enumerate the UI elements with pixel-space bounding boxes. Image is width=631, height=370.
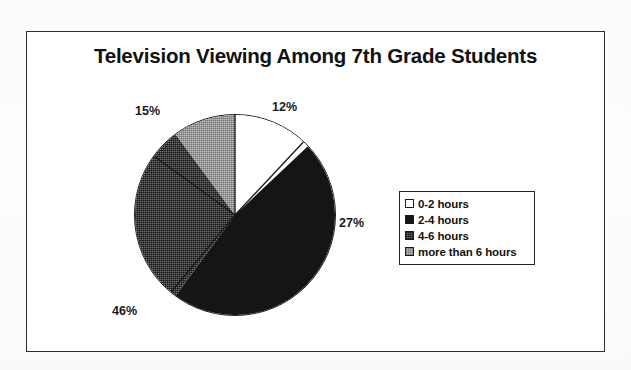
pie-slice-fill-more-than-6-hours — [135, 115, 335, 315]
legend-swatch-icon-more-than-6-hours — [405, 247, 414, 256]
legend-swatch-icon-4-6-hours — [405, 231, 414, 240]
legend-label-4-6-hours: 4-6 hours — [418, 230, 469, 242]
pie-circle — [134, 114, 336, 316]
chart-frame: Television Viewing Among 7th Grade Stude… — [26, 31, 605, 352]
pie-label-0-2-hours: 12% — [272, 100, 297, 114]
legend-label-more-than-6-hours: more than 6 hours — [418, 246, 517, 258]
pie-label-4-6-hours: 46% — [112, 304, 137, 318]
legend-label-0-2-hours: 0-2 hours — [418, 198, 469, 210]
legend-item-0-2-hours[interactable]: 0-2 hours — [405, 196, 529, 211]
chart-title: Television Viewing Among 7th Grade Stude… — [27, 44, 604, 68]
legend-item-more-than-6-hours[interactable]: more than 6 hours — [405, 244, 529, 259]
legend-swatch-icon-2-4-hours — [405, 215, 414, 224]
legend-item-4-6-hours[interactable]: 4-6 hours — [405, 228, 529, 243]
pie-chart — [134, 114, 336, 316]
legend-label-2-4-hours: 2-4 hours — [418, 214, 469, 226]
chart-legend: 0-2 hours 2-4 hours 4-6 hours more than … — [399, 191, 535, 265]
legend-swatch-icon-0-2-hours — [405, 199, 414, 208]
pie-label-more-than-6-hours: 15% — [135, 104, 160, 118]
pie-slice-more-than-6-hours[interactable] — [135, 115, 335, 315]
legend-item-2-4-hours[interactable]: 2-4 hours — [405, 212, 529, 227]
pie-label-2-4-hours: 27% — [339, 216, 364, 230]
